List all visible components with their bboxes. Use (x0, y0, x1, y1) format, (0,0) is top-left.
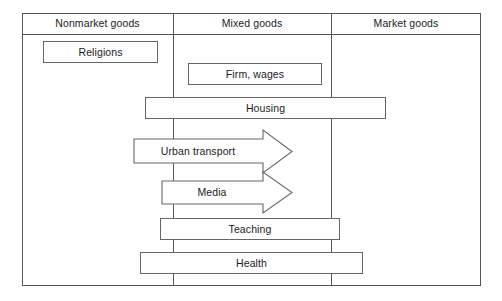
arrow-right-icon (161, 170, 293, 215)
column-header-nonmarket-goods: Nonmarket goods (22, 13, 173, 34)
item-box-housing[interactable]: Housing (145, 97, 386, 119)
item-box-health[interactable]: Health (140, 252, 363, 274)
column-header-market-goods: Market goods (331, 13, 481, 34)
goods-classification-diagram: Nonmarket goods Mixed goods Market goods… (0, 0, 502, 301)
column-header-row: Nonmarket goods Mixed goods Market goods (22, 13, 481, 35)
column-divider-mixed-market (331, 13, 332, 286)
column-header-mixed-goods: Mixed goods (173, 13, 331, 34)
item-arrow-media[interactable]: Media (161, 170, 293, 215)
arrow-right-icon (133, 128, 293, 175)
item-box-religions[interactable]: Religions (43, 41, 158, 63)
item-box-firm-wages[interactable]: Firm, wages (188, 63, 322, 85)
item-box-teaching[interactable]: Teaching (160, 218, 340, 240)
item-arrow-urban-transport[interactable]: Urban transport (133, 128, 293, 175)
